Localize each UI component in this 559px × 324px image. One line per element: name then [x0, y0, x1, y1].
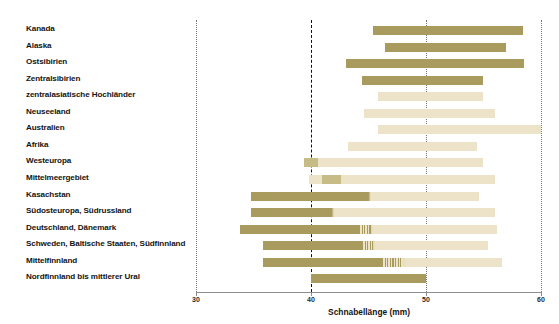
range-bar [364, 109, 495, 118]
category-label-column: KanadaAlaskaOstsibirienZentralsibirienze… [0, 0, 190, 292]
category-label: Mittelmeergebiet [26, 173, 89, 183]
plot-area [196, 20, 541, 292]
category-label: Westeuropa [26, 156, 71, 166]
x-tick-label-40: 40 [307, 296, 315, 303]
range-bar [348, 142, 477, 151]
category-label: Nordfinnland bis mittlerer Ural [26, 272, 140, 282]
range-bar [362, 76, 484, 85]
range-bar [263, 241, 488, 250]
category-label: Kasachstan [26, 190, 70, 200]
range-bar [263, 258, 502, 267]
range-bar [251, 208, 495, 217]
gridline-30 [196, 20, 198, 292]
range-bar [311, 274, 426, 283]
range-bar [385, 43, 507, 52]
x-tick-label-50: 50 [422, 296, 430, 303]
category-label: zentralasiatische Hochländer [26, 90, 135, 100]
range-bar [346, 59, 524, 68]
range-bar [304, 158, 483, 167]
category-label: Australien [26, 123, 65, 133]
bar-striped-transition [359, 225, 371, 234]
category-label: Alaska [26, 41, 52, 51]
bar-dark-segment [322, 175, 340, 184]
category-label: Deutschland, Dänemark [26, 223, 116, 233]
category-label: Ostsibirien [26, 57, 67, 67]
bird-bill-length-range-chart: KanadaAlaskaOstsibirienZentralsibirienze… [0, 0, 559, 324]
range-bar [240, 225, 498, 234]
bar-striped-transition [362, 241, 374, 250]
x-axis-title: Schnabellänge (mm) [196, 307, 542, 317]
gridline-60 [541, 20, 543, 292]
category-label: Zentralsibirien [26, 74, 80, 84]
range-bar [251, 192, 479, 201]
range-bar [378, 92, 484, 101]
x-tick-label-30: 30 [192, 296, 200, 303]
x-tick-label-60: 60 [537, 296, 545, 303]
reference-line-40 [311, 20, 313, 292]
category-label: Schweden, Baltische Staaten, Südfinnland [26, 239, 185, 249]
category-label: Neuseeland [26, 107, 70, 117]
category-label: Südosteuropa, Südrussland [26, 206, 131, 216]
range-bar [309, 175, 495, 184]
category-label: Mittelfinnland [26, 256, 77, 266]
range-bar [378, 125, 541, 134]
x-axis-line [196, 292, 542, 293]
category-label: Afrika [26, 140, 48, 150]
range-bar [373, 26, 523, 35]
bar-striped-transition [382, 258, 403, 267]
bar-dark-segment [304, 158, 318, 167]
category-label: Kanada [26, 24, 55, 34]
